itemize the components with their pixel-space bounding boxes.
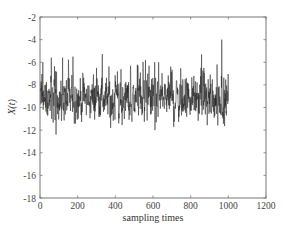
y-tick-label: -6 (28, 58, 36, 68)
y-tick-label: -14 (23, 148, 36, 158)
x-tick-label: 1000 (219, 201, 238, 211)
y-tick-label: -8 (28, 80, 36, 90)
y-axis-label: X(t) (6, 99, 18, 116)
y-tick-label: -4 (28, 35, 36, 45)
x-tick-label: 600 (146, 201, 161, 211)
y-tick-label: -10 (23, 103, 36, 113)
x-tick-label: 400 (108, 201, 123, 211)
y-tick-label: -18 (23, 194, 36, 204)
x-tick-label: 0 (38, 201, 43, 211)
x-tick-label: 1200 (257, 201, 276, 211)
x-tick-label: 200 (71, 201, 86, 211)
line-chart: 020040060080010001200 -2-4-6-8-10-12-14-… (0, 0, 283, 231)
y-tick-label: -2 (28, 13, 36, 23)
x-axis-label: sampling times (123, 212, 184, 223)
chart-background (0, 0, 283, 231)
y-tick-label: -12 (23, 126, 36, 136)
x-tick-label: 800 (184, 201, 199, 211)
y-tick-label: -16 (23, 171, 36, 181)
